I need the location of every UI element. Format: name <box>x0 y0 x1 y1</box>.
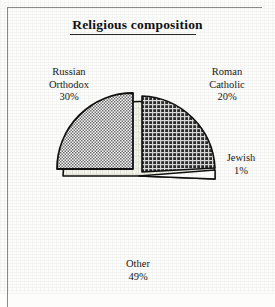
slice-label-russian-orthodox-line1: Russian <box>26 66 112 79</box>
slice-value-roman-catholic: 20% <box>188 91 266 104</box>
pie-slice-roman-catholic <box>142 96 215 172</box>
slice-value-jewish: 1% <box>215 165 267 178</box>
slice-label-roman-catholic: Roman Catholic 20% <box>188 66 266 104</box>
slice-value-russian-orthodox: 30% <box>26 91 112 104</box>
slice-label-russian-orthodox: Russian Orthodox 30% <box>26 66 112 104</box>
slice-label-other-line1: Other <box>96 258 180 271</box>
slice-label-roman-catholic-line1: Roman <box>188 66 266 79</box>
slice-label-jewish: Jewish 1% <box>215 152 267 177</box>
slice-label-other: Other 49% <box>96 258 180 283</box>
pie-slice-russian-orthodox <box>57 93 133 169</box>
slice-label-roman-catholic-line2: Catholic <box>188 79 266 92</box>
slice-label-russian-orthodox-line2: Orthodox <box>26 79 112 92</box>
slice-value-other: 49% <box>96 271 180 284</box>
pie-slice-russian-orthodox-exploded <box>57 93 133 169</box>
slice-label-jewish-line1: Jewish <box>215 152 267 165</box>
